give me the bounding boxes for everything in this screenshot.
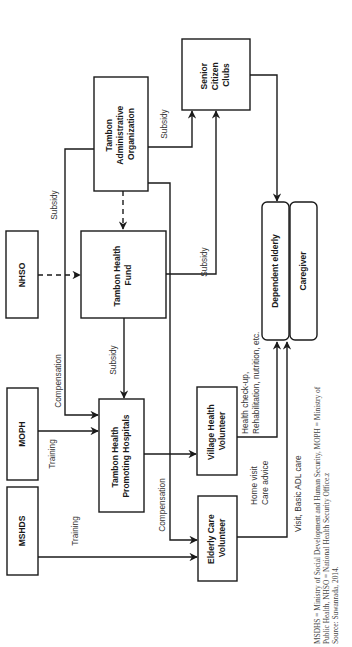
label-vhv-to-dependent: Health check-up, Rehabilitation, nutriti… (240, 332, 261, 434)
label-thph-to-ecv: Compensation (157, 478, 167, 532)
svg-text:NHSO: NHSO (17, 262, 27, 287)
edge-tao-to-scc (148, 111, 192, 147)
label-thf-to-thph: Subsidy (108, 344, 118, 374)
elderly-care-flow-diagram: Tambon Administrative Organization Senio… (0, 0, 352, 647)
node-dependent-elderly: Dependent elderly (262, 202, 289, 340)
svg-text:MSHDS: MSHDS (17, 515, 27, 546)
node-tambon-health-promoting-hospitals: Tambon Health Promoting Hospitals (99, 399, 144, 512)
node-village-health-volunteer: Village Health Volunteer (197, 387, 237, 475)
node-caregiver: Caregiver (290, 202, 317, 340)
footnote: MSDHS = Ministry of Social Development a… (313, 385, 340, 644)
svg-text:Senior Citizen Clu: Senior Citizen Clubs (199, 60, 231, 90)
label-mshds-to-ecv: Training (70, 516, 80, 546)
svg-text:MOPH: MOPH (17, 421, 27, 447)
svg-text:Dependent elderly: Dependent elderly (270, 234, 280, 308)
node-tambon-health-fund: Tambon Health Fund (81, 231, 166, 318)
label-thf-to-scc: Subsidy (199, 246, 209, 276)
node-mshds: MSHDS (7, 487, 38, 575)
label-vhv-home-visit: Home visit Care advice (249, 460, 270, 505)
edge-scc-to-dependent (250, 75, 277, 201)
label-moph-to-thph: Training (47, 439, 57, 469)
node-senior-citizen-clubs: Senior Citizen Clubs (182, 39, 250, 110)
node-elderly-care-volunteer: Elderly Care Volunteer (198, 496, 237, 581)
label-tao-to-thph: Subsidy (49, 189, 59, 219)
label-nhso-to-thph: Compensation (53, 354, 63, 408)
label-ecv-to-dependent: Visit, Basic ADL care (293, 455, 303, 532)
svg-text:Tambon Health Promoting: Tambon Health Promoting Hospitals (110, 414, 131, 497)
svg-text:Elderly Care Volunteer: Elderly Care Volunteer (206, 512, 227, 564)
label-tao-to-scc: Subsidy (159, 108, 169, 138)
node-moph: MOPH (7, 388, 38, 480)
svg-text:Caregiver: Caregiver (298, 251, 308, 291)
node-tambon-administrative-organization: Tambon Administrative Organization (94, 77, 148, 191)
node-nhso: NHSO (6, 231, 38, 318)
